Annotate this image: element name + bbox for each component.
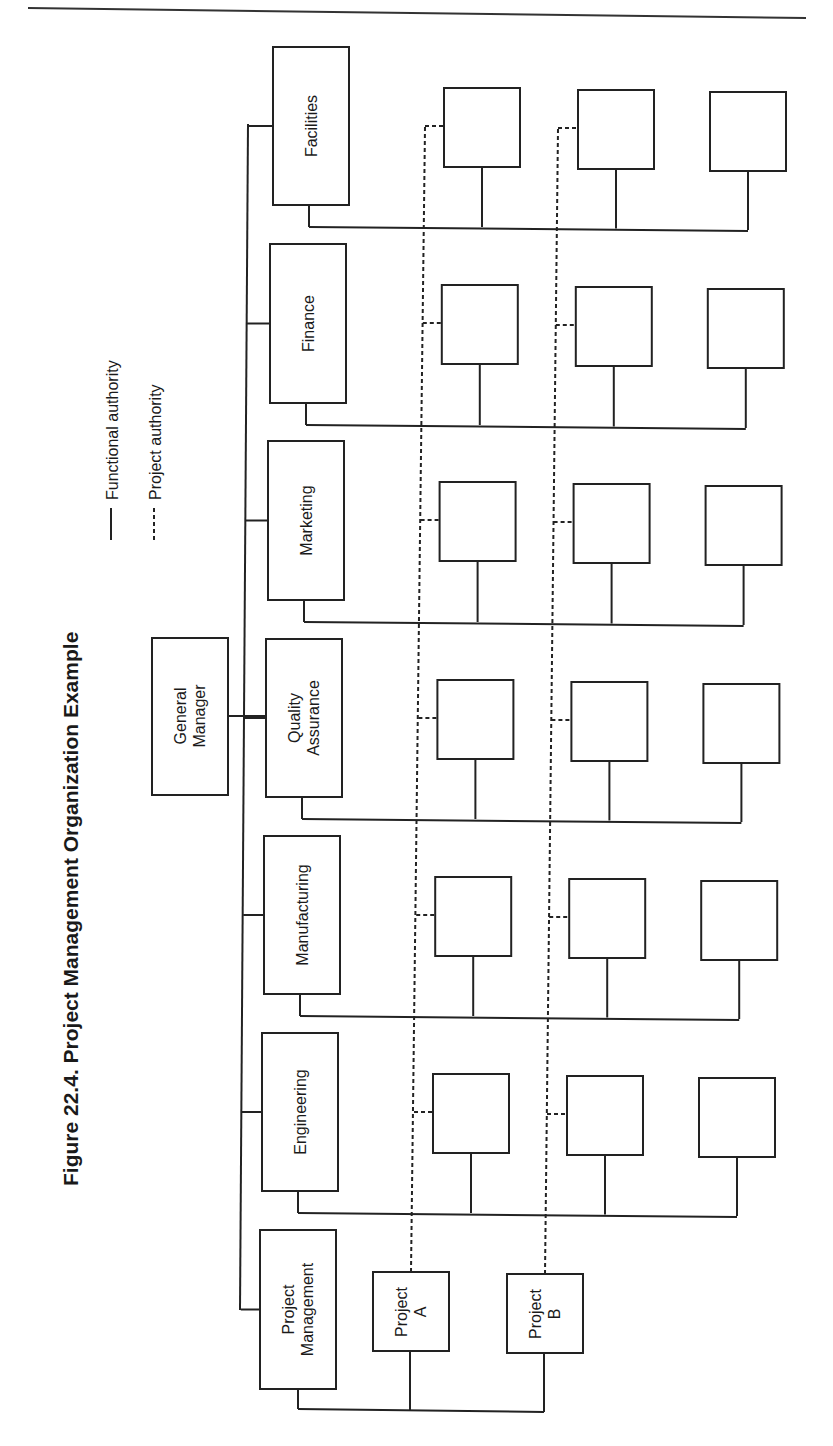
general-manager-label: Manager — [191, 684, 208, 748]
figure-page: Figure 22.4. Project Management Organiza… — [0, 0, 833, 1446]
dept-bus-marketing — [304, 622, 744, 626]
dept-bus-manufacturing — [300, 1016, 739, 1020]
legend-functional-label: Functional authority — [104, 360, 121, 500]
staff-box — [706, 486, 782, 565]
chart-layer: GeneralManagerFacilitiesFinanceMarketing… — [152, 47, 786, 1412]
project-a-authority-line — [411, 127, 425, 1272]
project-a-label: Project — [393, 1287, 410, 1337]
dept-label-finance: Finance — [300, 295, 317, 352]
dept-label-project-management: Management — [299, 1262, 316, 1356]
staff-box — [699, 1078, 775, 1157]
header-rule — [28, 8, 806, 18]
project-b-authority-line — [545, 129, 558, 1274]
staff-box — [576, 287, 652, 366]
org-chart-diagram: Figure 22.4. Project Management Organiza… — [0, 0, 833, 1446]
figure-title: Figure 22.4. Project Management Organiza… — [59, 632, 82, 1186]
staff-box — [440, 482, 516, 561]
dept-label-project-management: Project — [280, 1284, 297, 1334]
pm-bus-line — [298, 1409, 544, 1412]
staff-box — [435, 877, 511, 956]
general-manager-label: General — [172, 688, 189, 745]
staff-box — [708, 289, 784, 368]
staff-box — [567, 1076, 643, 1155]
dept-label-quality-assurance: Quality — [286, 693, 303, 743]
dept-bus-facilities — [309, 227, 748, 231]
dept-bus-finance — [306, 425, 746, 429]
dept-label-quality-assurance: Assurance — [305, 680, 322, 756]
staff-box — [433, 1074, 509, 1153]
staff-box — [578, 90, 654, 169]
staff-box — [710, 92, 786, 171]
dept-bus-quality-assurance — [302, 819, 741, 823]
staff-box — [701, 881, 777, 960]
staff-box — [442, 285, 518, 364]
staff-box — [574, 484, 650, 563]
project-b-label: B — [546, 1309, 563, 1320]
staff-box — [569, 879, 645, 958]
staff-box — [444, 88, 520, 167]
dept-label-engineering: Engineering — [292, 1069, 309, 1154]
staff-box — [437, 680, 513, 759]
legend-project-label: Project authority — [147, 384, 164, 500]
project-b-label: Project — [527, 1289, 544, 1339]
staff-box — [703, 684, 779, 763]
dept-bus-engineering — [298, 1213, 737, 1217]
project-a-label: A — [412, 1306, 429, 1317]
dept-label-facilities: Facilities — [303, 95, 320, 157]
dept-label-manufacturing: Manufacturing — [294, 864, 311, 965]
staff-box — [571, 682, 647, 761]
dept-label-marketing: Marketing — [298, 485, 315, 555]
